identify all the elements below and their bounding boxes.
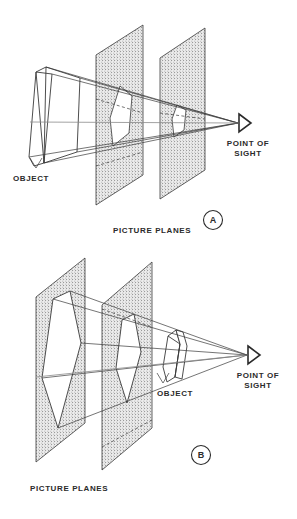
panel-a-diagram xyxy=(29,25,251,230)
picture-planes-label-a: PICTURE PLANES xyxy=(113,226,191,236)
point-of-sight-label-a-line1: POINT OF xyxy=(216,139,280,149)
picture-plane-a-1 xyxy=(96,25,143,205)
object-b xyxy=(163,330,187,382)
point-of-sight-label-b-line1: POINT OF xyxy=(226,371,290,381)
perspective-figure: OBJECT PICTURE PLANES POINT OF SIGHT A O… xyxy=(0,0,297,519)
panel-marker-b: B xyxy=(192,450,210,460)
picture-plane-b-1 xyxy=(36,258,85,462)
panel-marker-a: A xyxy=(204,215,222,225)
object-label-b: OBJECT xyxy=(157,389,193,399)
point-of-sight-label-a-line2: SIGHT xyxy=(216,149,280,159)
object-label-a: OBJECT xyxy=(13,174,49,184)
eye-triangle-icon-b xyxy=(248,346,260,364)
figure-canvas xyxy=(0,0,297,519)
object-a xyxy=(29,67,80,166)
panel-b-diagram xyxy=(36,258,260,470)
picture-planes-label-b: PICTURE PLANES xyxy=(30,484,108,494)
eye-triangle-icon-a xyxy=(239,114,251,132)
point-of-sight-label-b-line2: SIGHT xyxy=(226,381,290,391)
picture-plane-a-2 xyxy=(160,28,205,199)
